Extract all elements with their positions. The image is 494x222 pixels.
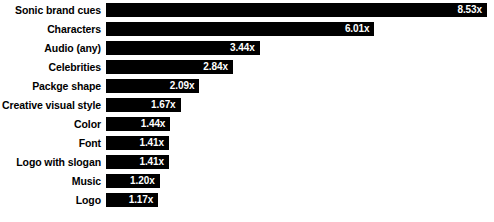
- bar-row: Celebrities2.84x: [0, 60, 494, 74]
- bar-row: Music1.20x: [0, 174, 494, 188]
- bar-track: 6.01x: [106, 22, 494, 36]
- bar-row: Creative visual style1.67x: [0, 98, 494, 112]
- bar-value-label: 1.44x: [141, 117, 166, 131]
- bar-value-label: 2.09x: [170, 79, 195, 93]
- bar-fill: 1.67x: [106, 98, 181, 112]
- bar-value-label: 2.84x: [203, 60, 228, 74]
- bar-value-label: 1.41x: [139, 155, 164, 169]
- bar-track: 1.67x: [106, 98, 494, 112]
- bar-row: Packge shape2.09x: [0, 79, 494, 93]
- bar-row: Font1.41x: [0, 136, 494, 150]
- bar-track: 1.20x: [106, 174, 494, 188]
- bar-category-label: Logo with slogan: [0, 155, 106, 169]
- bar-row: Color1.44x: [0, 117, 494, 131]
- bar-row: Logo1.17x: [0, 193, 494, 207]
- bar-category-label: Color: [0, 117, 106, 131]
- bar-row: Audio (any)3.44x: [0, 41, 494, 55]
- bar-category-label: Celebrities: [0, 60, 106, 74]
- bar-fill: 2.84x: [106, 60, 233, 74]
- bar-track: 8.53x: [106, 3, 494, 17]
- bar-track: 2.09x: [106, 79, 494, 93]
- bar-fill: 3.44x: [106, 41, 260, 55]
- bar-track: 1.17x: [106, 193, 494, 207]
- bar-fill: 1.17x: [106, 193, 158, 207]
- bar-chart-rows: Sonic brand cues8.53xCharacters6.01xAudi…: [0, 3, 494, 212]
- bar-value-label: 1.41x: [139, 136, 164, 150]
- bar-row: Characters6.01x: [0, 22, 494, 36]
- bar-category-label: Creative visual style: [0, 98, 106, 112]
- bar-track: 3.44x: [106, 41, 494, 55]
- bar-category-label: Sonic brand cues: [0, 3, 106, 17]
- bar-row: Logo with slogan1.41x: [0, 155, 494, 169]
- bar-category-label: Packge shape: [0, 79, 106, 93]
- bar-value-label: 8.53x: [457, 3, 482, 17]
- bar-value-label: 1.20x: [130, 174, 155, 188]
- bar-row: Sonic brand cues8.53x: [0, 3, 494, 17]
- bar-value-label: 1.67x: [151, 98, 176, 112]
- bar-fill: 8.53x: [106, 3, 487, 17]
- bar-category-label: Logo: [0, 193, 106, 207]
- bar-track: 1.44x: [106, 117, 494, 131]
- bar-track: 1.41x: [106, 155, 494, 169]
- bar-fill: 1.44x: [106, 117, 170, 131]
- bar-value-label: 6.01x: [345, 22, 370, 36]
- bar-value-label: 3.44x: [230, 41, 255, 55]
- bar-track: 2.84x: [106, 60, 494, 74]
- bar-fill: 1.41x: [106, 155, 169, 169]
- bar-fill: 1.41x: [106, 136, 169, 150]
- bar-category-label: Music: [0, 174, 106, 188]
- bar-value-label: 1.17x: [129, 193, 154, 207]
- bar-fill: 1.20x: [106, 174, 160, 188]
- bar-category-label: Font: [0, 136, 106, 150]
- bar-chart: Sonic brand cues8.53xCharacters6.01xAudi…: [0, 0, 494, 222]
- bar-category-label: Audio (any): [0, 41, 106, 55]
- bar-fill: 2.09x: [106, 79, 199, 93]
- bar-track: 1.41x: [106, 136, 494, 150]
- bar-fill: 6.01x: [106, 22, 374, 36]
- bar-category-label: Characters: [0, 22, 106, 36]
